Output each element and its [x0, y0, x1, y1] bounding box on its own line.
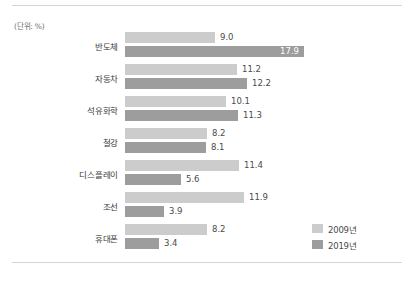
bar-row: 5.6: [125, 174, 181, 185]
bar-row: 11.2: [125, 64, 237, 75]
legend-label: 2009년: [328, 223, 357, 235]
bar-group: 조선11.93.9: [0, 191, 414, 221]
bar-2019년: [125, 206, 164, 217]
legend-label: 2019년: [328, 239, 357, 251]
bar-row: 11.9: [125, 192, 244, 203]
bar-value-label: 11.4: [244, 160, 263, 171]
bar-2009년: [125, 128, 207, 139]
bar-2009년: [125, 160, 239, 171]
bar-2019년: [125, 142, 206, 153]
plot-area: 반도체9.017.9자동차11.212.2석유화학10.111.3철강8.28.…: [0, 31, 414, 253]
legend-item-2019년[interactable]: 2019년: [312, 238, 357, 251]
category-label: 디스플레이: [0, 168, 118, 180]
bar-value-label: 12.2: [252, 78, 271, 89]
bar-2019년: [125, 46, 304, 57]
bar-value-label: 11.3: [243, 110, 262, 121]
bar-value-label: 17.9: [280, 46, 299, 57]
bar-row: 11.4: [125, 160, 239, 171]
bottom-divider: [12, 262, 402, 263]
bar-2009년: [125, 32, 215, 43]
bar-value-label: 8.2: [212, 224, 226, 235]
bar-2009년: [125, 96, 226, 107]
bar-group: 철강8.28.1: [0, 127, 414, 157]
bar-row: 9.0: [125, 32, 215, 43]
top-divider: [12, 5, 402, 6]
bar-2019년: [125, 110, 238, 121]
bar-2019년: [125, 238, 159, 249]
bar-2009년: [125, 224, 207, 235]
chart-figure: (단위: %) 반도체9.017.9자동차11.212.2석유화학10.111.…: [0, 0, 414, 283]
bar-value-label: 11.9: [249, 192, 268, 203]
bar-group: 반도체9.017.9: [0, 31, 414, 61]
bar-2009년: [125, 192, 244, 203]
bar-value-label: 9.0: [220, 32, 234, 43]
legend-item-2009년[interactable]: 2009년: [312, 222, 357, 235]
bar-value-label: 5.6: [186, 174, 200, 185]
category-label: 자동차: [0, 72, 118, 84]
bar-value-label: 3.4: [164, 238, 178, 249]
legend-swatch-icon: [312, 240, 323, 249]
bar-value-label: 8.1: [211, 142, 225, 153]
bar-row: 8.2: [125, 128, 207, 139]
bar-group: 석유화학10.111.3: [0, 95, 414, 125]
bar-row: 10.1: [125, 96, 226, 107]
bar-value-label: 8.2: [212, 128, 226, 139]
bar-group: 디스플레이11.45.6: [0, 159, 414, 189]
legend-swatch-icon: [312, 224, 323, 233]
bar-row: 8.2: [125, 224, 207, 235]
category-label: 반도체: [0, 40, 118, 52]
bar-row: 3.9: [125, 206, 164, 217]
chart-legend: 2009년2019년: [312, 222, 357, 254]
unit-note: (단위: %): [14, 20, 45, 31]
category-label: 조선: [0, 200, 118, 212]
bar-row: 3.4: [125, 238, 159, 249]
bar-row: 12.2: [125, 78, 247, 89]
bar-row: 11.3: [125, 110, 238, 121]
category-label: 휴대폰: [0, 232, 118, 244]
bar-value-label: 10.1: [231, 96, 250, 107]
bar-2009년: [125, 64, 237, 75]
category-label: 철강: [0, 136, 118, 148]
bar-group: 자동차11.212.2: [0, 63, 414, 93]
bar-row: 17.9: [125, 46, 304, 57]
bar-value-label: 3.9: [169, 206, 183, 217]
bar-row: 8.1: [125, 142, 206, 153]
category-label: 석유화학: [0, 104, 118, 116]
bar-2019년: [125, 78, 247, 89]
bar-value-label: 11.2: [242, 64, 261, 75]
bar-2019년: [125, 174, 181, 185]
